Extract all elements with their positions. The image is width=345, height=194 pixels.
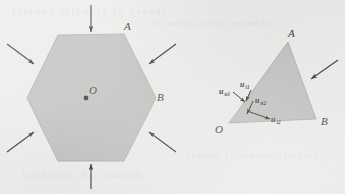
triangle-label-b: B [321,115,328,127]
triangle-label-a: A [287,27,295,39]
hexagon-load-arrow-lower-left [7,132,34,152]
triangle-panel: A B O u n1 u t1 u n2 [215,27,338,135]
vector-label-ut1-sub: t1 [246,84,250,90]
vector-label-ut1-base: u [240,80,245,89]
hexagon-load-arrow-upper-left [7,44,34,64]
vector-label-un1-sub: n1 [225,91,231,97]
triangle-label-o: O [215,123,223,135]
figure-root: theory of granular contact element simul… [0,0,345,194]
vector-label-un1: u n1 [219,87,230,97]
hexagon-load-arrow-lower-right [149,132,176,152]
hexagon-center-label: O [89,84,97,96]
figure-canvas: O A B A B O [0,0,345,194]
hexagon-load-arrow-upper-right [149,44,176,64]
hexagon-label-a: A [123,20,131,32]
hexagon-panel: O A B [7,5,176,189]
vector-label-ut1: u t1 [240,80,250,90]
hexagon-center-dot [84,96,89,101]
vector-label-ut2-base: u [271,115,276,124]
hexagon-label-b: B [157,91,164,103]
hexagon-shape [27,34,156,161]
vector-arrow-un1 [233,92,245,102]
triangle-load-arrow [311,60,338,79]
vector-label-un1-base: u [219,87,224,96]
vector-label-un2-base: u [255,96,260,105]
vector-label-un2-sub: n2 [261,100,267,106]
vector-label-ut2-sub: t2 [277,119,281,125]
